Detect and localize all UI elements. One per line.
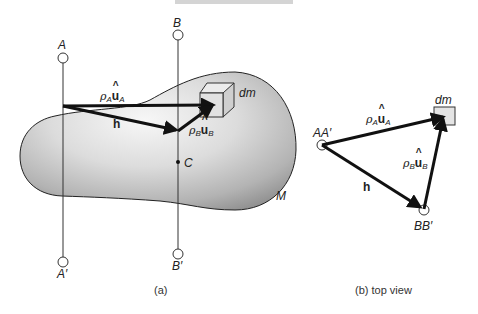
center-of-mass-dot [176, 160, 180, 164]
top-view-h-label: h [363, 181, 370, 193]
vector-rho-a-arrow [63, 105, 213, 106]
top-view-rho-a-label: ρAu^A [366, 113, 391, 127]
body-mass-label: M [276, 190, 286, 202]
axis-a-top-label: A [58, 39, 66, 51]
panel-b-caption: (b) top view [355, 285, 412, 296]
parallel-axis-figure: A A′ B B′ C M dm ρAu^A h ρBu^B (a) AA′ B… [0, 0, 478, 314]
panel-a-caption: (a) [154, 285, 167, 296]
vector-rho-b-label: ρBu^B [189, 124, 214, 138]
mass-element-label: dm [239, 87, 256, 99]
top-view-aa-label: AA′ [313, 127, 331, 139]
axis-b-top-circle [173, 30, 183, 40]
top-view-h-arrow [322, 145, 420, 207]
top-view-mass-element [434, 107, 455, 125]
axis-b-bottom-circle [173, 249, 183, 259]
top-view-bb-label: BB′ [414, 220, 432, 232]
axis-a-bottom-circle [58, 257, 68, 267]
axis-a-bottom-label: A′ [57, 268, 67, 280]
vector-h-label: h [113, 118, 120, 130]
center-of-mass-label: C [184, 157, 193, 169]
axis-a-top-circle [58, 53, 68, 63]
axis-b-bottom-label: B′ [172, 260, 182, 272]
vector-rho-a-label: ρAu^A [100, 90, 125, 104]
top-view-mass-element-label: dm [435, 94, 452, 106]
axis-b-top-label: B [173, 17, 181, 29]
top-view-rho-b-label: ρBu^B [403, 157, 428, 171]
